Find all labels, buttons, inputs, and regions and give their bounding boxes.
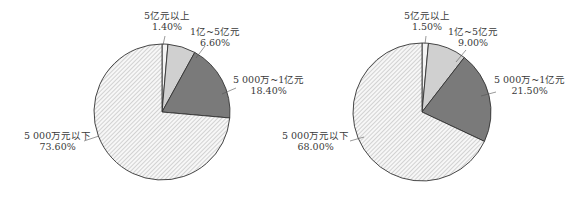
label-left-1yi-5yi: 1亿~5亿元 6.60%	[190, 26, 240, 48]
pie-chart-left	[84, 36, 236, 180]
label-right-under-5000wan: 5 000万元以下 68.00%	[282, 130, 349, 152]
label-right-5000wan-1yi: 5 000万~1亿元 21.50%	[494, 74, 565, 96]
label-value: 73.60%	[24, 141, 91, 152]
label-left-under-5000wan: 5 000万元以下 73.60%	[24, 130, 91, 152]
label-category: 5 000万元以下	[24, 130, 91, 141]
label-right-1yi-5yi: 1亿~5亿元 9.00%	[448, 26, 498, 48]
label-value: 21.50%	[494, 85, 565, 96]
label-value: 6.60%	[190, 37, 240, 48]
label-category: 5亿元以上	[404, 10, 450, 21]
pie-chart-right	[350, 36, 496, 181]
label-right-over-5yi: 5亿元以上 1.50%	[404, 10, 450, 32]
label-category: 1亿~5亿元	[448, 26, 498, 37]
label-value: 18.40%	[233, 85, 304, 96]
label-value: 68.00%	[282, 141, 349, 152]
label-left-5000wan-1yi: 5 000万~1亿元 18.40%	[233, 74, 304, 96]
label-category: 1亿~5亿元	[190, 26, 240, 37]
label-category: 5 000万~1亿元	[233, 74, 304, 85]
label-category: 5 000万元以下	[282, 130, 349, 141]
label-value: 9.00%	[448, 37, 498, 48]
label-value: 1.50%	[404, 21, 450, 32]
label-category: 5 000万~1亿元	[494, 74, 565, 85]
label-category: 5亿元以上	[144, 10, 190, 21]
label-left-over-5yi: 5亿元以上 1.40%	[144, 10, 190, 32]
label-value: 1.40%	[144, 21, 190, 32]
